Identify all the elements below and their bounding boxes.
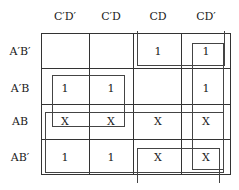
col-header: CD (134, 10, 182, 23)
col-header: C′D (87, 10, 135, 23)
row-header: AB (0, 115, 40, 128)
col-header: C′D′ (41, 10, 89, 23)
group-wrap-top (137, 31, 225, 66)
row-header: A′B′ (0, 45, 40, 58)
col-header: CD′ (182, 10, 230, 23)
row-header: AB′ (0, 151, 40, 164)
row-header: A′B (0, 82, 40, 95)
group-wrap-bottom (137, 148, 220, 183)
